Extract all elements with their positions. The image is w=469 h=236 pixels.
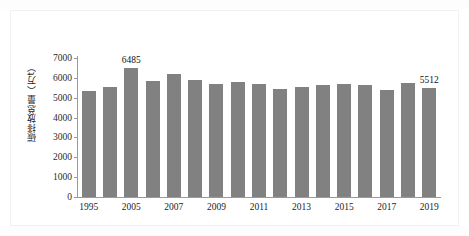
bar[interactable] — [209, 84, 223, 197]
bar[interactable] — [337, 84, 351, 197]
y-axis-tick-label: 3000 — [53, 132, 72, 142]
x-axis-tick-label: 2007 — [154, 203, 194, 213]
y-axis-tick-label: 1000 — [53, 172, 72, 182]
x-axis-tick-label: 1995 — [69, 203, 109, 213]
y-axis-tick-mark — [74, 58, 77, 59]
x-axis-line — [77, 197, 441, 198]
y-axis-tick-label: 5000 — [53, 93, 72, 103]
bar-series-layer — [78, 58, 440, 197]
figure-page: 碳排放总量（万t） 01000200030004000500060007000 … — [0, 0, 469, 236]
x-axis-tick-label: 2009 — [196, 203, 236, 213]
x-axis-tick-label: 2013 — [282, 203, 322, 213]
x-axis-tick-label: 2011 — [239, 203, 279, 213]
x-axis-tick-label: 2015 — [324, 203, 364, 213]
bar[interactable] — [401, 83, 415, 197]
bar[interactable] — [124, 68, 138, 197]
y-axis-tick-mark — [74, 78, 77, 79]
bar[interactable] — [188, 80, 202, 197]
y-axis-tick-label: 6000 — [53, 73, 72, 83]
bar[interactable] — [358, 85, 372, 197]
bar[interactable] — [295, 87, 309, 197]
y-axis-tick-mark — [74, 157, 77, 158]
y-axis-tick-label: 2000 — [53, 152, 72, 162]
bar[interactable] — [103, 87, 117, 197]
y-axis-title: 碳排放总量（万t） — [25, 62, 39, 142]
y-axis-tick-mark — [74, 118, 77, 119]
bar[interactable] — [380, 90, 394, 197]
bar-value-label: 6485 — [111, 56, 151, 66]
y-axis-tick-mark — [74, 177, 77, 178]
bar[interactable] — [231, 82, 245, 197]
bar[interactable] — [273, 89, 287, 197]
bar[interactable] — [167, 74, 181, 197]
y-axis-tick-label: 7000 — [53, 53, 72, 63]
bar[interactable] — [146, 81, 160, 197]
x-axis-tick-label: 2017 — [367, 203, 407, 213]
y-axis-tick-label: 4000 — [53, 113, 72, 123]
bar-chart: 碳排放总量（万t） 01000200030004000500060007000 … — [0, 0, 469, 236]
bar[interactable] — [422, 88, 436, 197]
bar[interactable] — [252, 84, 266, 197]
y-axis-tick-mark — [74, 197, 77, 198]
y-axis-tick-mark — [74, 98, 77, 99]
y-axis-tick-label: 0 — [67, 192, 72, 202]
x-axis-tick-label: 2005 — [111, 203, 151, 213]
x-axis-tick-label: 2019 — [409, 203, 449, 213]
y-axis-tick-mark — [74, 137, 77, 138]
bar-value-label: 5512 — [409, 76, 449, 86]
bar[interactable] — [316, 85, 330, 197]
bar[interactable] — [82, 91, 96, 197]
